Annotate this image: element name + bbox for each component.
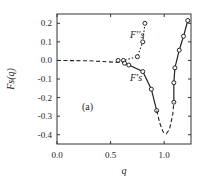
y-axis-label: Fs(q) <box>5 68 17 91</box>
y-tick-label: -0.3 <box>38 111 53 121</box>
series-line <box>157 102 174 134</box>
data-marker <box>141 40 145 44</box>
y-tick-label: 0.2 <box>41 18 52 28</box>
x-tick-label: 0.5 <box>105 150 117 160</box>
x-tick-label: 1.0 <box>159 150 171 160</box>
x-tick-label: 0.0 <box>51 150 63 160</box>
y-tick-label: -0.4 <box>38 130 53 140</box>
y-tick-label: -0.2 <box>38 93 52 103</box>
x-axis-label: q <box>122 165 127 176</box>
data-marker <box>181 34 185 38</box>
plot-frame <box>57 14 191 144</box>
data-marker <box>127 63 131 67</box>
y-tick-label: 0.1 <box>41 37 52 47</box>
annotation-fs-prime: F's <box>129 72 142 83</box>
data-marker <box>172 81 176 85</box>
y-tick-label: 0.0 <box>41 55 53 65</box>
data-marker <box>186 19 190 23</box>
data-marker <box>135 55 139 59</box>
series-line <box>174 21 188 103</box>
chart: 0.00.51.00.20.10.0-0.1-0.2-0.3-0.4qFs(q)… <box>0 0 200 185</box>
y-tick-label: -0.1 <box>38 74 52 84</box>
panel-label: (a) <box>82 101 93 113</box>
data-marker <box>177 48 181 52</box>
data-marker <box>149 87 153 91</box>
annotation-fs-double-prime: F''s <box>129 29 144 40</box>
data-marker <box>173 66 177 70</box>
plot-area: 0.00.51.00.20.10.0-0.1-0.2-0.3-0.4qFs(q)… <box>5 14 191 176</box>
data-marker <box>143 21 147 25</box>
series-line <box>57 60 123 62</box>
